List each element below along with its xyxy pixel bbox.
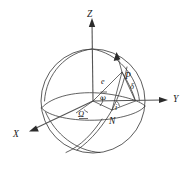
z-axis-arrowhead bbox=[89, 18, 95, 27]
angle-arc-omega-cap bbox=[84, 110, 88, 113]
label-z-axis: Z bbox=[87, 9, 93, 19]
label-point-n: N bbox=[108, 116, 116, 126]
label-point-p: P bbox=[124, 71, 131, 81]
label-omega-capital: Ω bbox=[78, 109, 84, 119]
x-axis-arrowhead bbox=[29, 126, 39, 132]
label-omega-small: ω bbox=[100, 92, 106, 102]
label-x-axis: X bbox=[12, 129, 20, 139]
orbital-elements-figure: Z Y X P N Ω ω δ i e bbox=[0, 0, 191, 169]
label-eccentricity: e bbox=[101, 77, 105, 86]
label-y-axis: Y bbox=[173, 94, 180, 104]
label-inclination: i bbox=[115, 103, 117, 112]
z-axis-line bbox=[92, 22, 93, 101]
orbit-arc-descending-far bbox=[66, 119, 102, 153]
meridian-arc-left bbox=[45, 49, 93, 101]
celestial-sphere-diagram: Z Y X P N Ω ω δ i e bbox=[0, 0, 191, 169]
y-axis-arrowhead bbox=[159, 97, 168, 103]
